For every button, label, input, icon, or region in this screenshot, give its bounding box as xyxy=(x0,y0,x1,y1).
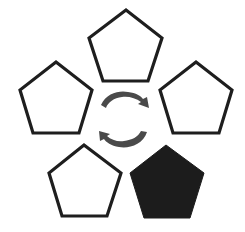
pentagon-bottom-left xyxy=(49,145,121,216)
pentagon-right xyxy=(160,62,232,133)
pentagon-bottom-right-filled xyxy=(130,145,204,218)
diagram-canvas xyxy=(0,0,245,232)
pentagon-left xyxy=(20,62,92,133)
lower-curved-arrow-icon xyxy=(99,131,147,147)
upper-curved-arrow-icon xyxy=(101,91,149,108)
pentagon-top xyxy=(89,10,162,81)
pentagon-cycle-diagram xyxy=(0,0,245,232)
